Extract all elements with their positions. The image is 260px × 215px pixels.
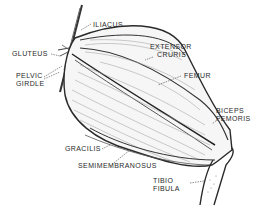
label-line: FIBULA: [153, 185, 180, 193]
label-line: GLUTEUS: [12, 50, 48, 58]
label-femur: FEMUR: [184, 72, 211, 80]
label-gracilis: GRACILIS: [65, 145, 101, 153]
label-line: CRURIS: [150, 51, 192, 59]
label-iliacus: ILIACUS: [93, 21, 123, 29]
label-line: PELVIC: [16, 72, 44, 80]
label-line: TIBIO: [153, 177, 180, 185]
label-line: SEMIMEMBRANOSUS: [78, 162, 157, 170]
label-line: GIRDLE: [16, 80, 44, 88]
label-tibio-fibula: TIBIO FIBULA: [153, 177, 180, 193]
label-line: FEMUR: [184, 72, 211, 80]
label-line: GRACILIS: [65, 145, 101, 153]
label-line: EXTENSOR: [150, 43, 192, 51]
label-extensor-cruris: EXTENSOR CRURIS: [150, 43, 192, 59]
label-semimembranosus: SEMIMEMBRANOSUS: [78, 162, 157, 170]
label-gluteus: GLUTEUS: [12, 50, 48, 58]
label-line: BICEPS: [216, 107, 251, 115]
anatomy-diagram: ILIACUS GLUTEUS PELVIC GIRDLE EXTENSOR C…: [0, 0, 260, 215]
label-line: ILIACUS: [93, 21, 123, 29]
label-pelvic-girdle: PELVIC GIRDLE: [16, 72, 44, 88]
label-line: FEMORIS: [216, 115, 251, 123]
label-biceps-femoris: BICEPS FEMORIS: [216, 107, 251, 123]
